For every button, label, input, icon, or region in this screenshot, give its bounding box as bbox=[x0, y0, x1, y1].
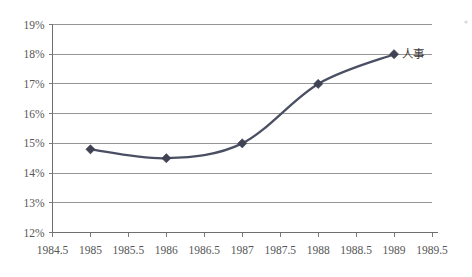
x-tick-label: 1987 bbox=[231, 244, 254, 256]
data-point-marker bbox=[238, 139, 247, 148]
line-chart: 12%13%14%15%16%17%18%19% 1984.519851985.… bbox=[0, 0, 472, 277]
data-series-group bbox=[86, 50, 399, 163]
y-tick-label: 17% bbox=[23, 78, 45, 90]
y-tick-label: 13% bbox=[23, 197, 45, 209]
gridlines bbox=[53, 25, 433, 203]
x-tick-label: 1986 bbox=[155, 244, 178, 256]
x-tick-label: 1987.5 bbox=[264, 244, 296, 256]
y-tick-label: 19% bbox=[23, 19, 45, 31]
y-tick-label: 16% bbox=[23, 108, 45, 120]
x-tick-label: 1985.5 bbox=[113, 244, 145, 256]
scan-artifact-speck bbox=[464, 20, 467, 23]
x-tick-label: 1984.5 bbox=[37, 244, 69, 256]
data-point-marker bbox=[389, 50, 398, 59]
y-tick-labels: 12%13%14%15%16%17%18%19% bbox=[23, 19, 45, 239]
y-tick-label: 15% bbox=[23, 137, 45, 149]
y-tick-label: 14% bbox=[23, 167, 45, 179]
x-tick-marks bbox=[53, 233, 433, 237]
x-tick-label: 1989 bbox=[383, 244, 406, 256]
series-annotations: 人事 bbox=[402, 47, 424, 61]
y-tick-marks bbox=[49, 25, 53, 233]
y-tick-label: 18% bbox=[23, 48, 45, 60]
x-tick-label: 1986.5 bbox=[188, 244, 220, 256]
chart-canvas: 12%13%14%15%16%17%18%19% 1984.519851985.… bbox=[0, 0, 472, 277]
data-point-marker bbox=[86, 145, 95, 154]
data-point-marker bbox=[162, 154, 171, 163]
x-tick-labels: 1984.519851985.519861986.519871987.51988… bbox=[37, 244, 448, 256]
x-tick-label: 1988.5 bbox=[340, 244, 372, 256]
series-markers bbox=[86, 50, 399, 163]
series-label-personnel: 人事 bbox=[402, 47, 424, 61]
x-tick-label: 1988 bbox=[307, 244, 330, 256]
x-tick-label: 1985 bbox=[79, 244, 102, 256]
x-tick-label: 1989.5 bbox=[416, 244, 448, 256]
y-tick-label: 12% bbox=[23, 227, 45, 239]
